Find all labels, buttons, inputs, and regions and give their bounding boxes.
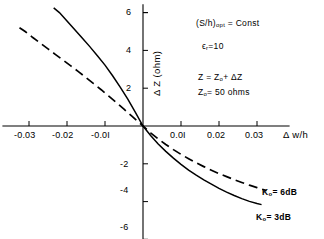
x-axis-title: Δ w/h [283, 129, 308, 140]
xtick-label: 0.0I [170, 130, 186, 140]
xtick-label: 0.03 [245, 130, 263, 140]
annotation-s-over-h-sub: opt [216, 22, 225, 28]
annotation-epsilon-tail: =10 [208, 41, 223, 51]
xtick-label: -0.02 [52, 130, 74, 140]
ytick-label: -2 [120, 159, 128, 169]
xtick-label: 0.02 [207, 130, 225, 140]
annotation-z-equation: Z = Zo+ ΔZ [198, 72, 243, 82]
curve-k0-3db [54, 8, 262, 205]
annotation-z0-tail: = 50 ohms [207, 87, 250, 97]
ytick-label: 6 [126, 7, 131, 17]
annotation-s-over-h: (S/h)opt = Const [196, 18, 259, 28]
annotation-epsilon-r: ϵr=10 [202, 41, 224, 51]
ytick-label: 4 [126, 45, 131, 55]
curve-label-k6-tail: = 6dB [272, 187, 297, 197]
ytick-label: -6 [120, 222, 128, 232]
plot-area [0, 0, 324, 239]
curve-label-k3-tail: = 3dB [266, 212, 291, 222]
ytick-label: -4 [120, 185, 128, 195]
chart-figure: -0.03 -0.02 -0.0I 0.0I 0.02 0.03 6 4 2 -… [0, 0, 324, 239]
annotation-z-eq-tail: + ΔZ [223, 72, 242, 82]
annotation-z-eq-main: Z = Z [198, 72, 220, 82]
annotation-s-over-h-tail: = Const [228, 18, 260, 28]
axes-group [2, 4, 289, 239]
curve-label-k0-3db: Ko= 3dB [256, 212, 291, 222]
ytick-label: 2 [126, 83, 131, 93]
xtick-label: -0.03 [14, 130, 36, 140]
xtick-label: -0.0I [91, 130, 110, 140]
annotation-s-over-h-main: (S/h) [196, 18, 216, 28]
y-axis-title: Δ Z (ohm) [151, 51, 162, 96]
curve-label-k0-6db: Ko= 6dB [262, 187, 297, 197]
annotation-z-zero-value: Zo= 50 ohms [198, 87, 250, 97]
